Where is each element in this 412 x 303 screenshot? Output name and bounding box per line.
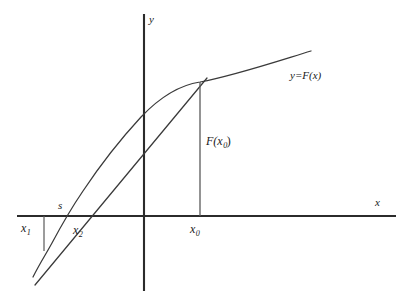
x2-label: x2	[73, 224, 82, 236]
diagram-canvas	[0, 0, 412, 303]
fx0-label-prefix: F(x	[206, 134, 223, 148]
curve-label: y=F(x)	[290, 70, 321, 81]
x1-label-sub: 1	[27, 228, 31, 237]
x1-label: x1	[21, 222, 30, 234]
x1-label-base: x	[21, 221, 26, 235]
fx0-label-sub: 0	[223, 141, 227, 150]
x0-label: x0	[190, 223, 199, 235]
x0-label-sub: 0	[196, 229, 200, 238]
fx0-label-suffix: )	[227, 134, 231, 148]
x-axis-label: x	[375, 197, 380, 208]
x2-label-base: x	[73, 223, 78, 237]
root-label-s: s	[58, 200, 62, 211]
secant-line	[35, 78, 207, 285]
x2-label-sub: 2	[79, 230, 83, 239]
x0-label-base: x	[190, 222, 195, 236]
fx0-label: F(x0)	[206, 135, 231, 147]
function-curve	[33, 51, 311, 277]
secant-method-figure: y x y=F(x) s x1 x2 x0 F(x0)	[0, 0, 412, 303]
y-axis-label: y	[149, 14, 154, 25]
